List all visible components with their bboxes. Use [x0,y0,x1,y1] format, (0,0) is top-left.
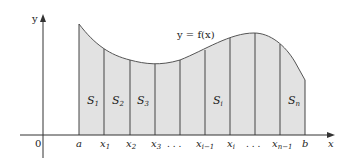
tick-x1: x1 [100,138,110,151]
tick-ellipsis-2: . . . [246,139,260,149]
tick-ellipsis-1: . . . [167,139,181,149]
y-axis-arrow-icon [40,14,46,22]
tick-x2: x2 [126,138,137,151]
tick-b: b [302,138,308,149]
riemann-strips-diagram: y x 0 y = f(x) a x1 x2 x3 . . . xi−1 xi … [0,0,353,164]
x-tick-labels: a x1 x2 x3 . . . xi−1 xi . . . xn−1 b [76,138,308,151]
curve-label: y = f(x) [176,29,215,40]
y-axis-label: y [31,13,38,24]
x-axis-label: x [328,138,334,149]
tick-xn-1: xn−1 [272,138,292,151]
origin-label: 0 [35,138,41,149]
area-under-curve [79,24,305,135]
tick-xi-1: xi−1 [196,138,214,151]
tick-xi: xi [227,138,235,151]
tick-x3: x3 [151,138,162,151]
tick-a: a [76,138,82,149]
